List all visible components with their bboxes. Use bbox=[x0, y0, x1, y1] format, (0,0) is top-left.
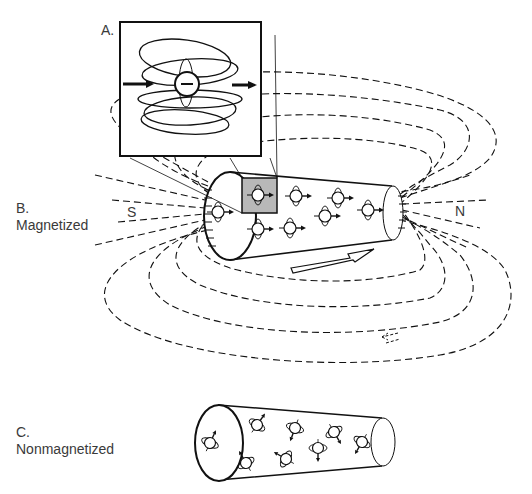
dipole-icon bbox=[282, 416, 307, 444]
dipole-icon bbox=[357, 200, 384, 220]
dipole-icon bbox=[309, 439, 327, 462]
dipole-icon bbox=[314, 206, 341, 226]
dipole-icon bbox=[244, 408, 272, 437]
nonmagnetized-cylinder bbox=[195, 405, 395, 481]
dipole-icon bbox=[285, 186, 312, 206]
field-direction-arrow-icon bbox=[382, 333, 400, 343]
north-pole-label: N bbox=[455, 203, 465, 219]
dipole-icon bbox=[347, 430, 374, 459]
south-pole-label: S bbox=[127, 204, 136, 220]
panel-b-text: Magnetized bbox=[16, 217, 88, 234]
dipole-icon bbox=[269, 444, 298, 471]
dipole-icon bbox=[322, 420, 349, 449]
inset-panel-a bbox=[120, 22, 261, 156]
panel-c-label: C. Nonmagnetized bbox=[16, 424, 114, 458]
panel-c-letter: C. bbox=[16, 424, 114, 441]
panel-b-letter: B. bbox=[16, 200, 88, 217]
dipole-icon bbox=[327, 188, 354, 208]
panel-a-label: A. bbox=[101, 22, 114, 39]
panel-c-text: Nonmagnetized bbox=[16, 441, 114, 458]
dipole-icon bbox=[279, 218, 306, 238]
panel-b-label: B. Magnetized bbox=[16, 200, 88, 234]
magnetization-arrow-icon bbox=[291, 249, 374, 273]
magnetism-diagram bbox=[0, 0, 532, 494]
